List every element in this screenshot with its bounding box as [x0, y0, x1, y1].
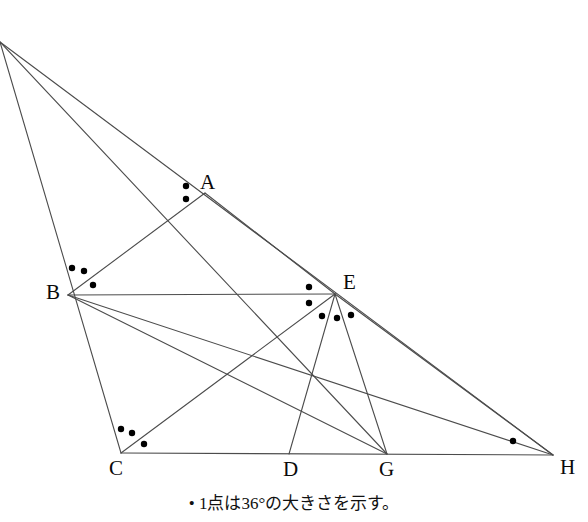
segment-apex-to-C [0, 42, 121, 453]
segment-B-to-E [68, 294, 335, 295]
angle-dot-H [510, 438, 516, 444]
vertex-label-D: D [283, 459, 298, 480]
vertex-label-E: E [343, 272, 356, 293]
angle-dot-A [183, 196, 189, 202]
vertex-label-G: G [379, 459, 394, 480]
segment-A-to-E [205, 193, 335, 294]
vertex-label-H: H [560, 457, 575, 478]
angle-dots-group [69, 183, 516, 447]
angle-dot-C [129, 430, 135, 436]
angle-dot-A [183, 183, 189, 189]
segment-D-to-E [289, 294, 335, 454]
angle-dot-E [306, 300, 312, 306]
segments-group [0, 42, 553, 455]
segment-C-to-E [121, 294, 335, 453]
segment-E-to-H [335, 294, 553, 455]
segment-E-to-G [335, 294, 387, 454]
angle-dot-E [348, 312, 354, 318]
vertex-label-A: A [200, 172, 215, 193]
geometry-figure: ABCDEGH • 1点は36°の大きさを示す。 [0, 0, 588, 522]
vertex-label-C: C [109, 458, 123, 479]
angle-dot-B [81, 268, 87, 274]
angle-dot-C [141, 441, 147, 447]
segment-apex-to-G [0, 42, 387, 454]
angle-dot-E [334, 315, 340, 321]
figure-caption: • 1点は36°の大きさを示す。 [0, 489, 588, 514]
angle-dot-B [90, 282, 96, 288]
angle-dot-E [319, 313, 325, 319]
geometry-canvas [0, 0, 588, 522]
vertex-label-B: B [46, 282, 60, 303]
segment-B-to-A [68, 193, 205, 295]
angle-dot-C [118, 426, 124, 432]
angle-dot-E [306, 284, 312, 290]
segment-C-to-H [121, 453, 553, 455]
angle-dot-B [69, 265, 75, 271]
segment-B-to-H [68, 295, 553, 455]
